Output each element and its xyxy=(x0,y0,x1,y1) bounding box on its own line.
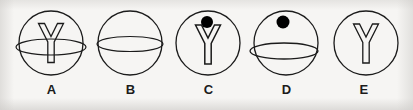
circle-outline-a xyxy=(19,11,83,75)
ellipse-overlay-d xyxy=(250,43,318,59)
figure-option-e[interactable]: E xyxy=(315,0,413,110)
filled-dot-d xyxy=(277,16,290,29)
y-glyph-e xyxy=(354,24,379,63)
figure-label-e: E xyxy=(315,82,413,98)
y-glyph-a xyxy=(39,24,64,63)
ellipse-overlay-a xyxy=(16,39,86,55)
puzzle-canvas: A B C D xyxy=(0,0,413,110)
figure-option-row: A B C D xyxy=(0,0,413,110)
y-glyph-c xyxy=(196,25,221,64)
circle-outline-b xyxy=(98,11,162,75)
figure-e-graphic xyxy=(315,0,413,82)
circle-outline-e xyxy=(334,11,398,75)
ellipse-overlay-b xyxy=(97,37,163,52)
filled-dot-c xyxy=(201,16,213,28)
